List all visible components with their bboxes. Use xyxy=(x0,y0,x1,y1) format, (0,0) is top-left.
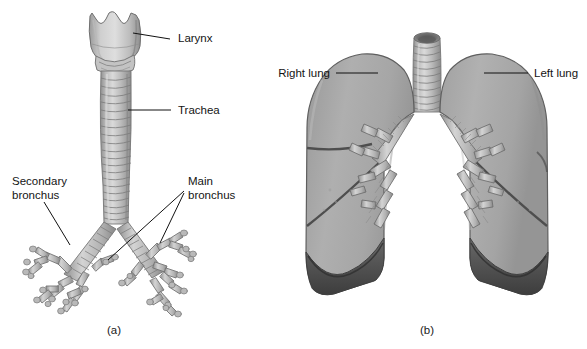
left-lung xyxy=(440,54,548,295)
label-secondary-bronchus-line1: Secondary xyxy=(12,175,67,187)
trachea-structure xyxy=(100,71,131,224)
label-right-lung: Right lung xyxy=(278,67,330,79)
trachea-in-situ xyxy=(413,33,441,112)
caption-panel-a: (a) xyxy=(107,324,121,336)
respiratory-system-figure: Larynx Trachea Secondary bronchus Main b… xyxy=(0,0,587,349)
leader-secondary-bronchus xyxy=(44,202,70,245)
panel-a-airway: Larynx Trachea Secondary bronchus Main b… xyxy=(12,12,236,336)
label-secondary-bronchus: Secondary bronchus xyxy=(12,175,67,201)
panel-b-lungs: Right lung Left lung (b) xyxy=(278,33,578,336)
label-larynx: Larynx xyxy=(178,32,213,44)
right-lung xyxy=(306,54,414,295)
larynx-structure xyxy=(89,12,141,74)
label-left-lung: Left lung xyxy=(534,67,578,79)
label-main-bronchus-line2: bronchus xyxy=(188,189,236,201)
label-trachea: Trachea xyxy=(178,104,220,116)
caption-panel-b: (b) xyxy=(420,324,434,336)
label-main-bronchus-line1: Main xyxy=(188,175,213,187)
label-main-bronchus: Main bronchus xyxy=(188,175,236,201)
figure-canvas: Larynx Trachea Secondary bronchus Main b… xyxy=(0,0,587,349)
label-secondary-bronchus-line2: bronchus xyxy=(12,189,60,201)
bronchial-tree-left xyxy=(23,246,119,314)
